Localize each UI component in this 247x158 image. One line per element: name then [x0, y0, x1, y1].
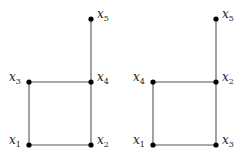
node-label-x5: x5 — [97, 7, 109, 23]
node-x3 — [213, 142, 218, 147]
graph-right: x1x3x4x2x5 — [133, 7, 234, 149]
node-x1 — [150, 142, 155, 147]
node-label-x4: x4 — [133, 70, 145, 86]
node-label-x1: x1 — [133, 133, 145, 149]
node-x5 — [213, 16, 218, 21]
node-label-x2: x2 — [97, 133, 109, 149]
node-x4 — [150, 79, 155, 84]
node-x2 — [213, 79, 218, 84]
node-label-x3: x3 — [222, 133, 234, 149]
node-label-x1: x1 — [9, 133, 21, 149]
node-label-x5: x5 — [222, 7, 234, 23]
node-label-x4: x4 — [97, 70, 109, 86]
graph-left: x1x2x3x4x5 — [9, 7, 109, 149]
node-x2 — [88, 142, 93, 147]
node-label-x3: x3 — [9, 70, 21, 86]
node-x1 — [26, 142, 31, 147]
graph-diagram: x1x2x3x4x5x1x3x4x2x5 — [0, 0, 247, 158]
node-x5 — [88, 16, 93, 21]
node-x4 — [88, 79, 93, 84]
node-label-x2: x2 — [222, 70, 234, 86]
node-x3 — [26, 79, 31, 84]
